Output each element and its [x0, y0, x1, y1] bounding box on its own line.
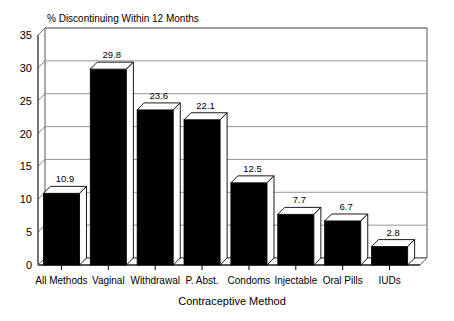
bar-front-face — [278, 214, 314, 265]
bar — [137, 103, 180, 265]
bar-front-face — [184, 120, 220, 265]
x-tick-label: P. Abst. — [185, 275, 218, 286]
bar-front-face — [90, 69, 126, 265]
x-tick-label: Withdrawal — [130, 275, 179, 286]
x-axis: All MethodsVaginalWithdrawalP. Abst.Cond… — [35, 265, 400, 286]
x-tick-label: All Methods — [35, 275, 87, 286]
bar-side-face — [126, 62, 133, 265]
bar-side-face — [267, 176, 274, 265]
bar — [43, 186, 86, 265]
bar-side-face — [220, 113, 227, 265]
bar-side-face — [79, 186, 86, 265]
x-tick-label: Oral Pills — [323, 275, 363, 286]
chart-page: 05101520253035 10.929.823.622.112.57.76.… — [0, 0, 454, 321]
x-tick-label: IUDs — [378, 275, 400, 286]
bar-value-label: 22.1 — [196, 100, 215, 111]
bar — [325, 214, 368, 265]
bar — [184, 113, 227, 265]
x-axis-label: Contraceptive Method — [178, 295, 286, 307]
bar-front-face — [231, 183, 267, 265]
bar-side-face — [173, 103, 180, 265]
y-tick-depth-line — [38, 61, 45, 68]
bar — [278, 207, 321, 265]
x-tick-label: Vaginal — [92, 275, 125, 286]
y-tick-label: 5 — [26, 226, 32, 238]
bar — [231, 176, 274, 265]
x-tick-label: Condoms — [228, 275, 271, 286]
bar-front-face — [372, 247, 408, 265]
chart-title: % Discontinuing Within 12 Months — [47, 13, 199, 24]
bar-value-label: 6.7 — [340, 201, 353, 212]
bar-side-face — [314, 207, 321, 265]
y-tick-label: 20 — [20, 128, 32, 140]
bar-side-face — [361, 214, 368, 265]
bar-front-face — [325, 221, 361, 265]
y-tick-label: 25 — [20, 95, 32, 107]
bar-chart-3d: 05101520253035 10.929.823.622.112.57.76.… — [0, 0, 454, 321]
x-tick-label: Injectable — [274, 275, 317, 286]
bar-value-label: 23.6 — [149, 90, 168, 101]
bar-value-label: 12.5 — [243, 163, 262, 174]
y-tick-depth-line — [38, 159, 45, 166]
bar-front-face — [43, 193, 79, 265]
bar — [372, 240, 415, 265]
bar-front-face — [137, 110, 173, 265]
bar-value-label: 7.7 — [293, 194, 306, 205]
y-tick-label: 15 — [20, 160, 32, 172]
y-tick-label: 30 — [20, 62, 32, 74]
bar-value-label: 29.8 — [103, 49, 122, 60]
y-tick-label: 0 — [26, 259, 32, 271]
y-tick-label: 10 — [20, 193, 32, 205]
bar-value-label: 10.9 — [56, 173, 75, 184]
top-left-depth-line — [38, 28, 45, 35]
y-tick-label: 35 — [20, 29, 32, 41]
bar — [90, 62, 133, 265]
y-tick-depth-line — [38, 94, 45, 101]
bar-value-label: 2.8 — [386, 227, 399, 238]
y-tick-depth-line — [38, 127, 45, 134]
